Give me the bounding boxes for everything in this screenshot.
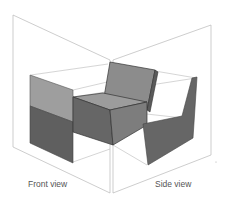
orthographic-projection-diagram: Front view Side view [0,0,225,205]
chair-projection-drawing [0,0,225,205]
chair-right-face [110,102,147,145]
side-view-label: Side view [155,179,191,189]
front-view-label: Front view [28,179,67,189]
decorative-dot [216,162,217,163]
